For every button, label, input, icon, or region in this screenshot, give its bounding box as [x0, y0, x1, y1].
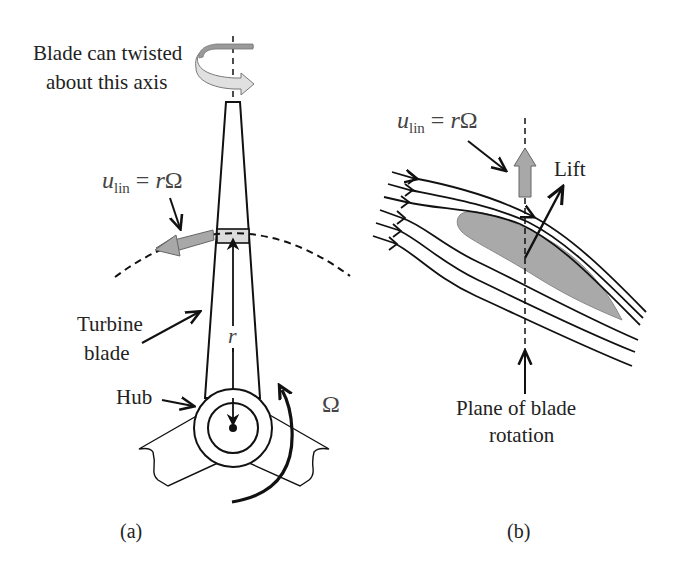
panel-b: ulin = rΩ Lift Plane of blade rotation (… [373, 107, 646, 543]
linear-velocity-arrow-a [155, 230, 214, 256]
velocity-label-a: ulin = rΩ [102, 167, 183, 196]
turbine-blade-diagram: ulin = rΩ r Ω Blade can twisted about th… [0, 0, 680, 572]
velocity-pointer-b [468, 141, 505, 170]
omega-label: Ω [322, 391, 340, 417]
caption-a: (a) [120, 520, 142, 543]
turbine-blade-label-line2: blade [84, 341, 129, 365]
twist-axis-label-line1: Blade can twisted [33, 41, 183, 65]
turbine-blade-label-line1: Turbine [77, 312, 143, 336]
velocity-label-b: ulin = rΩ [397, 107, 478, 136]
caption-b: (b) [507, 520, 530, 543]
turbine-blade-pointer [142, 312, 199, 343]
hub-label: Hub [116, 385, 152, 409]
radius-label: r [228, 323, 237, 348]
twist-arrow-icon [196, 44, 254, 95]
streamlines [373, 172, 646, 366]
rotation-plane-label-line2: rotation [489, 423, 555, 447]
twist-axis-label-line2: about this axis [46, 70, 167, 94]
lift-label: Lift [554, 157, 586, 181]
velocity-pointer-a [170, 198, 180, 228]
hub-center-dot [229, 424, 237, 432]
hub-pointer [162, 400, 193, 406]
linear-velocity-arrow-b [514, 148, 536, 197]
panel-a: ulin = rΩ r Ω Blade can twisted about th… [33, 36, 350, 543]
rotation-plane-label-line1: Plane of blade [456, 396, 576, 420]
